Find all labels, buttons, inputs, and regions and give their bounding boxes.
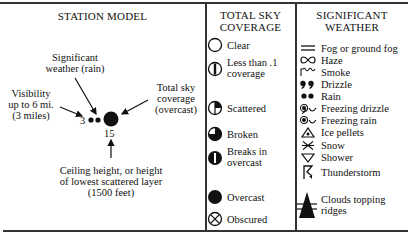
sky-coverage-title: TOTAL SKY COVERAGE xyxy=(206,9,295,33)
weather-label-drizzle: Drizzle xyxy=(321,79,352,90)
rain-dot xyxy=(95,117,100,122)
overcast-icon xyxy=(206,188,224,206)
haze-icon xyxy=(298,55,318,65)
sky-label-broken: Broken xyxy=(227,129,258,140)
shower-icon xyxy=(298,152,318,163)
snow-icon xyxy=(298,140,318,151)
weather-label-snow: Snow xyxy=(321,140,345,151)
title-line: COVERAGE xyxy=(206,21,295,33)
label-line: ridges xyxy=(321,205,385,216)
weather-label-freezing-drizzle: Freezing drizzle xyxy=(321,103,389,114)
weather-label-fog: Fog or ground fog xyxy=(321,43,398,54)
breaks-in-overcast-icon xyxy=(206,149,224,167)
sky-label-obscured: Obscured xyxy=(227,214,267,225)
weather-label-shower: Shower xyxy=(321,152,353,163)
smoke-icon xyxy=(298,67,318,77)
sky-label-overcast: Overcast xyxy=(227,192,264,203)
label-line: Clouds topping xyxy=(321,194,385,205)
label-line: Breaks in xyxy=(227,146,267,157)
sky-label-breaks-in-overcast: Breaks in overcast xyxy=(227,146,267,168)
weather-symbols-chart: STATION MODEL Significant weather (rain)… xyxy=(0,0,408,238)
rain-dot xyxy=(88,117,93,122)
less-than-tenth-icon xyxy=(206,60,224,78)
rain-icon xyxy=(298,91,318,101)
title-line: WEATHER xyxy=(296,21,408,33)
label-line: overcast xyxy=(227,157,267,168)
callout-line: Ceiling height, or height xyxy=(40,165,182,176)
obscured-icon xyxy=(206,210,224,228)
sky-label-scattered: Scattered xyxy=(227,103,266,114)
ice-pellets-icon xyxy=(298,127,318,138)
sky-label-less-than-tenth: Less than .1 coverage xyxy=(227,57,277,79)
broken-icon xyxy=(206,125,224,143)
weather-label-haze: Haze xyxy=(321,55,343,66)
clear-circle-icon xyxy=(206,36,224,54)
label-line: coverage xyxy=(227,68,277,79)
drizzle-icon xyxy=(298,79,318,90)
weather-label-freezing-rain: Freezing rain xyxy=(321,115,377,126)
clouds-topping-ridges-icon xyxy=(296,191,318,219)
title-line: TOTAL SKY xyxy=(206,9,295,21)
weather-label-ice-pellets: Ice pellets xyxy=(321,127,364,138)
fog-icon xyxy=(298,43,318,53)
bottom-border xyxy=(3,230,408,232)
ceiling-callout: Ceiling height, or height of lowest scat… xyxy=(40,165,182,198)
visibility-value: 3 xyxy=(80,115,85,126)
significant-weather-title: SIGNIFICANT WEATHER xyxy=(296,9,408,33)
title-line: SIGNIFICANT xyxy=(296,9,408,21)
freezing-rain-icon xyxy=(298,115,318,126)
weather-label-thunderstorm: Thunderstorm xyxy=(321,167,381,178)
ceiling-value: 15 xyxy=(104,128,115,139)
scattered-icon xyxy=(206,99,224,117)
weather-label-rain: Rain xyxy=(321,91,341,102)
label-line: Less than .1 xyxy=(227,57,277,68)
weather-label-clouds-topping-ridges: Clouds topping ridges xyxy=(321,194,385,216)
weather-label-smoke: Smoke xyxy=(321,67,350,78)
sky-label-clear: Clear xyxy=(227,40,250,51)
callout-line: of lowest scattered layer xyxy=(40,176,182,187)
thunderstorm-icon xyxy=(298,164,318,180)
overcast-circle xyxy=(104,112,119,127)
callout-line: (1500 feet) xyxy=(40,187,182,198)
freezing-drizzle-icon xyxy=(298,103,318,115)
